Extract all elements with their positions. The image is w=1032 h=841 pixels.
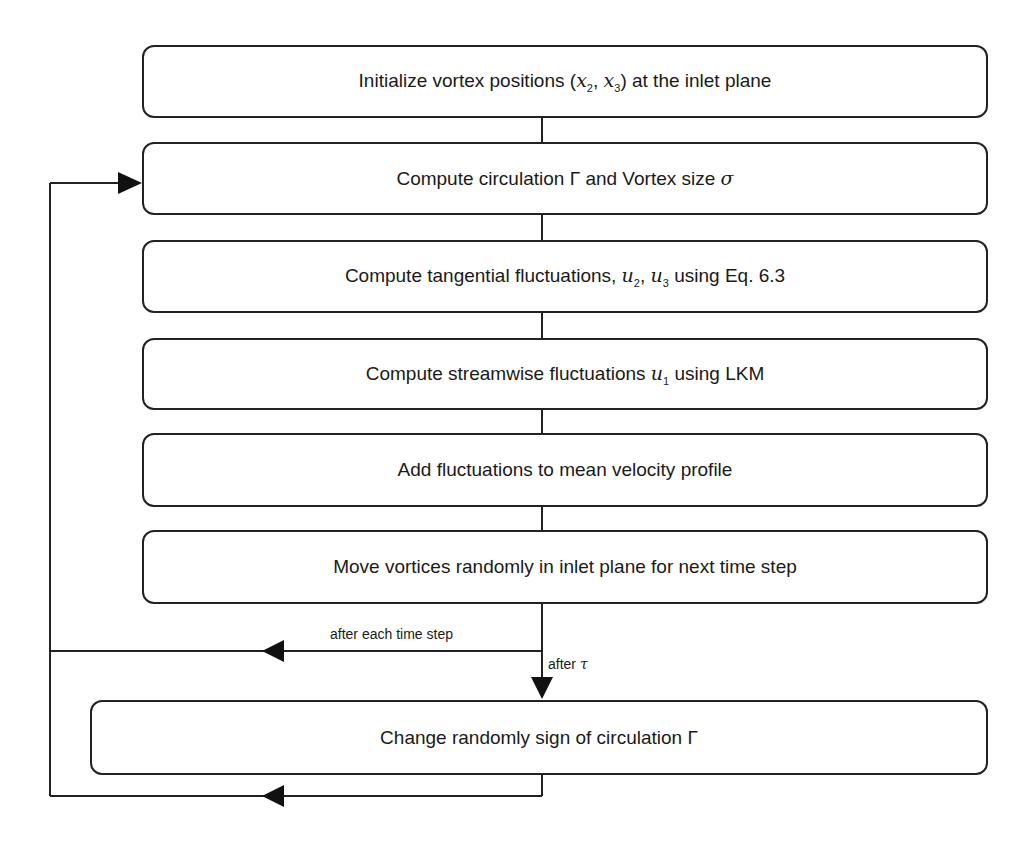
arrow-to-change-sign [531,677,553,699]
step-compute-streamwise-fluctuations: Compute streamwise fluctuations u1 using… [142,338,988,410]
step-add-fluctuations: Add fluctuations to mean velocity profil… [142,433,988,507]
arrow-loop-back [262,640,284,662]
step-initialize-vortex-positions: Initialize vortex positions (x2, x3) at … [142,45,988,118]
label-after-each-time-step: after each time step [330,626,453,642]
arrow-into-circulation [118,172,142,194]
step-move-vortices: Move vortices randomly in inlet plane fo… [142,530,988,604]
step-compute-tangential-fluctuations: Compute tangential fluctuations, u2, u3 … [142,240,988,313]
step-compute-circulation: Compute circulation Γ and Vortex size σ [142,142,988,215]
arrow-bottom-loop [262,785,284,807]
step-change-sign-circulation: Change randomly sign of circulation Γ [90,700,988,775]
label-after-tau: after τ [548,656,588,672]
